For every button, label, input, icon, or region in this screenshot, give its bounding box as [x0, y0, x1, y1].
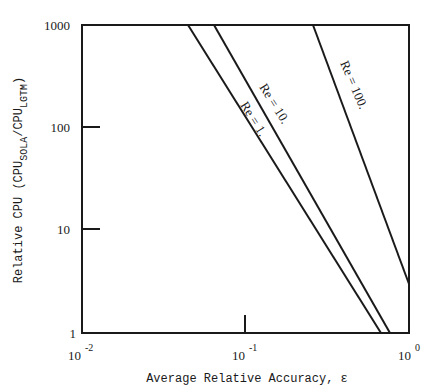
- svg-text:10: 10: [232, 348, 245, 363]
- series-line-re-10: [214, 25, 390, 333]
- svg-text:Relative CPU (CPUSOLA/CPULGTM): Relative CPU (CPUSOLA/CPULGTM): [12, 77, 30, 283]
- svg-text:10: 10: [398, 348, 411, 363]
- y-tick-label: 1: [70, 326, 77, 341]
- svg-text:-1: -1: [249, 342, 257, 353]
- svg-text:10: 10: [68, 348, 81, 363]
- chart: 1000 100 10 1 10 -2 10 -1 10 0 Average R…: [0, 0, 438, 390]
- x-tick-label-0.1: 10 -1: [232, 342, 257, 363]
- plot-frame: [82, 25, 409, 333]
- svg-text:-2: -2: [85, 342, 93, 353]
- y-tick-label: 10: [57, 222, 70, 237]
- annotation-re-1: Re = 1.: [237, 99, 270, 139]
- x-axis-label: Average Relative Accuracy, ε: [146, 372, 348, 386]
- series-line-re-100: [313, 25, 409, 284]
- x-tick-label-0.01: 10 -2: [68, 342, 93, 363]
- svg-text:0: 0: [415, 342, 420, 353]
- chart-canvas: 1000 100 10 1 10 -2 10 -1 10 0 Average R…: [0, 0, 438, 390]
- x-tick-label-1: 10 0: [398, 342, 420, 363]
- y-tick-label: 1000: [44, 18, 70, 33]
- y-tick-label: 100: [51, 120, 71, 135]
- y-axis-label: Relative CPU (CPUSOLA/CPULGTM): [12, 77, 30, 283]
